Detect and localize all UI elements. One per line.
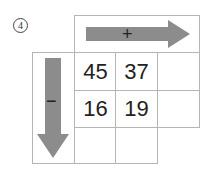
arrow-right-icon — [86, 20, 190, 48]
cell-r2-c3[interactable] — [158, 90, 199, 127]
cell-r2-c1: 16 — [75, 90, 116, 127]
grid-line — [74, 15, 200, 16]
cell-r3-c1[interactable] — [75, 127, 116, 164]
cell-r1-c1: 45 — [75, 53, 116, 90]
plus-operator: + — [122, 25, 133, 43]
problem-number-badge: 4 — [13, 18, 28, 33]
grid-line — [199, 15, 200, 128]
cell-r1-c2: 37 — [116, 53, 157, 90]
cell-r1-c3[interactable] — [158, 53, 199, 90]
grid-line — [32, 52, 33, 164]
minus-operator: − — [46, 92, 57, 110]
cell-r2-c2: 19 — [116, 90, 157, 127]
cell-r3-c2[interactable] — [116, 127, 157, 164]
